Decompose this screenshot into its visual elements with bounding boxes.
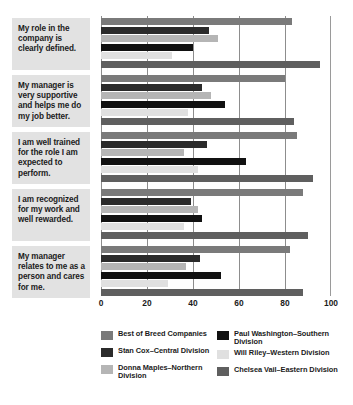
bar-g4-s3: [101, 272, 221, 279]
legend-item[interactable]: Will Riley–Western Division: [217, 349, 352, 364]
legend-item[interactable]: Donna Maples–Northern Division: [101, 364, 211, 381]
category-label-1: My manager is very supportive and helps …: [12, 75, 90, 127]
bar-g1-s0: [101, 75, 285, 82]
category-label-3: I am recognized for my work and well rew…: [12, 189, 90, 241]
bar-g2-s4: [101, 166, 198, 173]
bar-g1-s4: [101, 109, 188, 116]
legend-column-left: Best of Breed CompaniesStan Cox–Central …: [101, 330, 211, 383]
legend-swatch-icon: [217, 331, 229, 340]
bar-g0-s4: [101, 52, 172, 59]
plot-area: [101, 16, 331, 296]
legend-label: Chelsea Vail–Eastern Division: [234, 366, 352, 374]
bar-g0-s0: [101, 18, 292, 25]
bar-g3-s3: [101, 215, 202, 222]
bar-group-2: [101, 132, 331, 186]
bar-g4-s4: [101, 280, 168, 287]
bar-g0-s3: [101, 44, 193, 51]
bar-g1-s5: [101, 118, 294, 125]
bar-g0-s1: [101, 27, 209, 34]
bar-group-3: [101, 189, 331, 243]
bar-g4-s2: [101, 263, 186, 270]
legend-swatch-icon: [217, 367, 229, 376]
category-label-2: I am well trained for the role I am expe…: [12, 132, 90, 184]
bar-g4-s5: [101, 289, 303, 296]
legend-label: Stan Cox–Central Division: [118, 347, 211, 355]
legend-label: Will Riley–Western Division: [234, 349, 352, 357]
bar-g4-s1: [101, 255, 200, 262]
category-label-0: My role in the company is clearly define…: [12, 18, 90, 70]
legend-label: Paul Washington–Southern Division: [234, 330, 352, 347]
category-label-4: My manager relates to me as a person and…: [12, 246, 90, 298]
legend-swatch-icon: [101, 365, 113, 374]
bar-g2-s5: [101, 175, 313, 182]
legend-item[interactable]: Stan Cox–Central Division: [101, 347, 211, 362]
bar-g2-s1: [101, 141, 207, 148]
horizontal-bar-chart: My role in the company is clearly define…: [0, 0, 353, 405]
legend-label: Best of Breed Companies: [118, 330, 211, 338]
bar-g4-s0: [101, 246, 290, 253]
bar-g0-s5: [101, 61, 320, 68]
bar-g2-s3: [101, 158, 246, 165]
bar-g1-s1: [101, 84, 202, 91]
legend-swatch-icon: [101, 331, 113, 340]
bar-g3-s5: [101, 232, 308, 239]
x-tick-label-80: 80: [280, 298, 289, 308]
bar-g3-s2: [101, 206, 198, 213]
bar-g3-s4: [101, 223, 184, 230]
x-axis: 020406080100: [101, 296, 331, 312]
x-tick-label-60: 60: [234, 298, 243, 308]
x-tick-label-0: 0: [99, 298, 104, 308]
bar-g2-s0: [101, 132, 297, 139]
bar-g1-s2: [101, 92, 211, 99]
x-tick-label-40: 40: [188, 298, 197, 308]
legend-swatch-icon: [101, 348, 113, 357]
legend-item[interactable]: Paul Washington–Southern Division: [217, 330, 352, 347]
legend-label: Donna Maples–Northern Division: [118, 364, 211, 381]
legend-item[interactable]: Best of Breed Companies: [101, 330, 211, 345]
bar-g1-s3: [101, 101, 225, 108]
bar-g3-s1: [101, 198, 191, 205]
bar-g2-s2: [101, 149, 184, 156]
bar-group-4: [101, 246, 331, 300]
legend-swatch-icon: [217, 350, 229, 359]
bar-g0-s2: [101, 35, 218, 42]
bar-g3-s0: [101, 189, 303, 196]
bar-group-1: [101, 75, 331, 129]
bar-group-0: [101, 18, 331, 72]
legend-item[interactable]: Chelsea Vail–Eastern Division: [217, 366, 352, 381]
legend-column-right: Paul Washington–Southern DivisionWill Ri…: [217, 330, 352, 383]
x-tick-label-20: 20: [142, 298, 151, 308]
x-tick-label-100: 100: [324, 298, 338, 308]
